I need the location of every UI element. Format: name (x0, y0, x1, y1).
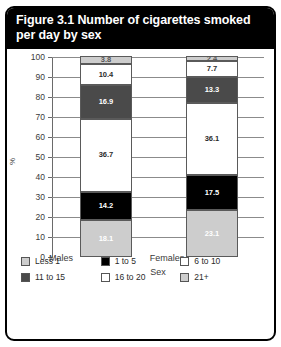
bar-segment[interactable]: 13.3 (186, 77, 238, 104)
bar-segment[interactable]: 14.2 (80, 192, 132, 220)
y-axis-tick-label: 20 (17, 212, 45, 222)
bar-segment-value: 7.7 (207, 65, 217, 73)
bar-segment[interactable]: 36.7 (80, 119, 132, 192)
legend-item[interactable]: 11 to 15 (21, 272, 101, 282)
bar-segment[interactable]: 17.5 (186, 175, 238, 210)
bars-layer: 18.114.236.716.910.43.823.117.536.113.37… (52, 57, 264, 257)
legend-swatch (101, 257, 110, 266)
legend-item[interactable]: 16 to 20 (101, 272, 181, 282)
legend-swatch (21, 257, 30, 266)
bar-segment[interactable]: 3.8 (80, 56, 132, 64)
legend-swatch (180, 257, 189, 266)
y-axis-tick-label: 90 (17, 72, 45, 82)
legend-row: Less 11 to 56 to 10 (21, 256, 260, 266)
bar-segment[interactable]: 36.1 (186, 103, 238, 175)
bar-segment-value: 14.2 (99, 202, 114, 210)
legend-swatch (21, 273, 30, 282)
legend-label: 16 to 20 (115, 272, 146, 282)
y-axis-tick-label: 70 (17, 112, 45, 122)
chart-legend: Less 11 to 56 to 1011 to 1516 to 2021+ (7, 256, 274, 288)
bar-segment[interactable]: 16.9 (80, 85, 132, 119)
bar-segment[interactable]: 23.1 (186, 210, 238, 256)
bar-segment-value: 17.5 (205, 189, 220, 197)
legend-item[interactable]: 21+ (180, 272, 260, 282)
legend-item[interactable]: 1 to 5 (101, 256, 181, 266)
bar-segment-value: 23.1 (205, 230, 220, 238)
figure-card: Figure 3.1 Number of cigarettes smoked p… (5, 6, 276, 341)
y-axis-tick-label: 100 (17, 52, 45, 62)
bar-segment-value: 2.4 (207, 55, 217, 63)
legend-label: 11 to 15 (35, 272, 65, 282)
legend-item[interactable]: Less 1 (21, 256, 101, 266)
bar-segment[interactable]: 18.1 (80, 220, 132, 256)
bar-segment-value: 36.1 (205, 135, 220, 143)
legend-label: 21+ (194, 272, 208, 282)
figure-title: Figure 3.1 Number of cigarettes smoked p… (7, 8, 274, 49)
legend-label: Less 1 (35, 256, 60, 266)
y-axis-tick-label: 30 (17, 192, 45, 202)
bar-segment[interactable]: 10.4 (80, 64, 132, 85)
chart-plot-area: % 0102030405060708090100 18.114.236.716.… (7, 49, 274, 279)
bar-segment[interactable]: 7.7 (186, 61, 238, 76)
y-axis-label: % (8, 157, 17, 164)
legend-label: 6 to 10 (194, 256, 220, 266)
y-axis-tick-label: 80 (17, 92, 45, 102)
y-axis-tick-label: 40 (17, 172, 45, 182)
y-axis-tick-label: 50 (17, 152, 45, 162)
bar-segment-value: 36.7 (99, 151, 114, 159)
bar-segment-value: 3.8 (101, 56, 111, 64)
bar-segment-value: 13.3 (205, 86, 220, 94)
legend-row: 11 to 1516 to 2021+ (21, 272, 260, 282)
legend-swatch (180, 273, 189, 282)
bar-segment-value: 10.4 (99, 71, 114, 79)
bar-segment[interactable]: 2.4 (186, 56, 238, 61)
bar-segment-value: 16.9 (99, 98, 114, 106)
legend-item[interactable]: 6 to 10 (180, 256, 260, 266)
bar-group-males[interactable]: 18.114.236.716.910.43.8 (80, 57, 132, 257)
y-axis-tick-label: 60 (17, 132, 45, 142)
bar-group-females[interactable]: 23.117.536.113.37.72.4 (186, 57, 238, 257)
bar-segment-value: 18.1 (99, 235, 114, 243)
legend-swatch (101, 273, 110, 282)
legend-label: 1 to 5 (115, 256, 136, 266)
y-axis-tick-label: 10 (17, 232, 45, 242)
